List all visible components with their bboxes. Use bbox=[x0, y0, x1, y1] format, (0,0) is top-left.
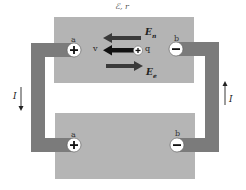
bottom-terminal-b-minus bbox=[170, 138, 184, 152]
ee-label: Ee bbox=[146, 68, 157, 79]
current-left-label: I bbox=[13, 92, 17, 101]
current-arrow-up-icon bbox=[223, 81, 228, 105]
emf-label: ℰ, r bbox=[115, 3, 129, 11]
charge-label: q bbox=[145, 45, 150, 53]
top-terminal-b-label: b bbox=[174, 35, 179, 43]
top-terminal-b-minus bbox=[169, 42, 183, 56]
current-arrow-down-icon bbox=[19, 87, 24, 111]
current-right-label: I bbox=[229, 95, 233, 104]
circuit-diagram bbox=[0, 0, 246, 190]
bottom-terminal-a-label: a bbox=[71, 131, 76, 139]
charge-q-icon bbox=[134, 46, 143, 55]
top-terminal-a-plus bbox=[67, 43, 81, 57]
velocity-label: v bbox=[93, 45, 98, 53]
en-label: En bbox=[145, 28, 156, 39]
bottom-terminal-b-label: b bbox=[175, 130, 180, 138]
bottom-terminal-a-plus bbox=[67, 138, 81, 152]
top-terminal-a-label: a bbox=[71, 36, 76, 44]
